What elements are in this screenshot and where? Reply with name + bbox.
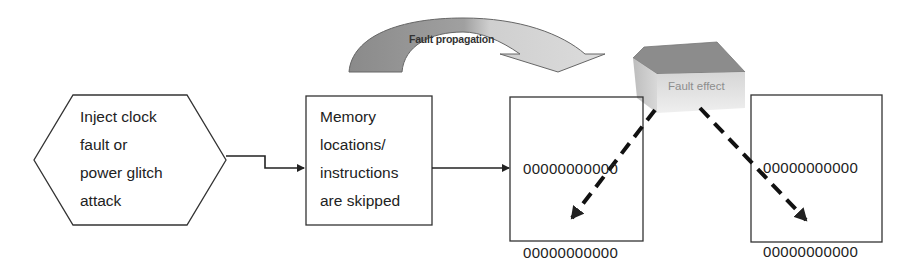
attack-to-memory-connector xyxy=(226,156,304,168)
fault-propagation-label: Fault propagation xyxy=(409,33,494,45)
binary-row: 00000000000 xyxy=(763,154,858,182)
attack-line: Inject clock xyxy=(80,103,163,131)
binary-row: 00000000000 xyxy=(523,155,618,183)
attack-line: fault or xyxy=(80,131,163,159)
attack-line: attack xyxy=(80,187,163,215)
memory-line: are skipped xyxy=(320,187,400,215)
attack-node-text: Inject clock fault or power glitch attac… xyxy=(80,103,163,215)
binary-row: 00000000000 xyxy=(523,239,618,258)
binary-row: 00000000000 xyxy=(763,238,858,258)
fault-propagation-arrow xyxy=(349,18,605,72)
memory-line: locations/ xyxy=(320,131,400,159)
fault-effect-block xyxy=(633,42,745,113)
binary-rows-after: 00000000000 00000000000 00000000000 0000… xyxy=(763,98,858,258)
memory-line: instructions xyxy=(320,159,400,187)
binary-rows-before: 00000000000 00000000000 00000000000 0000… xyxy=(523,99,618,258)
memory-node-text: Memory locations/ instructions are skipp… xyxy=(320,103,400,215)
attack-line: power glitch xyxy=(80,159,163,187)
fault-effect-label: Fault effect xyxy=(668,80,725,92)
memory-line: Memory xyxy=(320,103,400,131)
